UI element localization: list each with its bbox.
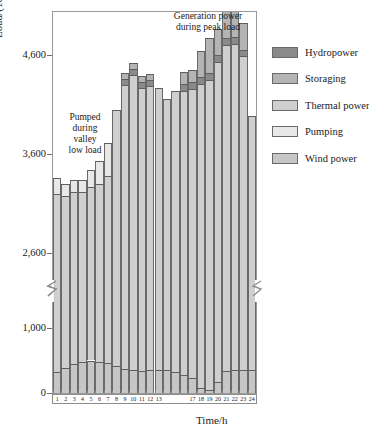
x-tick-mark — [78, 391, 79, 395]
bar-segment — [222, 38, 230, 45]
x-tick-label: 20 — [214, 395, 222, 404]
bar-segment — [239, 50, 247, 57]
bar-segment — [163, 370, 171, 393]
x-tick-mark — [231, 391, 232, 395]
legend-item[interactable]: Thermal power — [272, 99, 368, 111]
bar-segment — [180, 72, 188, 84]
x-tick-label: 18 — [197, 395, 205, 404]
bar-segment — [129, 69, 137, 75]
bar-segment — [61, 184, 69, 197]
bar-segment — [197, 51, 205, 78]
bar-segment — [87, 187, 95, 361]
bar-segment — [70, 192, 78, 363]
x-tick-mark — [171, 391, 172, 395]
bar-segment — [61, 368, 69, 393]
x-tick-label: 17 — [188, 395, 196, 404]
x-tick-label: 13 — [155, 395, 163, 404]
x-tick-label: 9 — [121, 395, 129, 404]
plot-inner — [53, 12, 256, 393]
legend-swatch — [272, 153, 298, 164]
bar-segment — [188, 378, 196, 393]
bar-segment — [121, 85, 129, 369]
bar-segment — [121, 79, 129, 85]
x-tick-mark — [112, 391, 113, 395]
x-tick-mark — [205, 391, 206, 395]
x-tick-label: 11 — [138, 395, 146, 404]
bar-segment — [197, 77, 205, 84]
bar-segment — [231, 370, 239, 393]
axis-break-right-icon — [250, 280, 264, 302]
bar-segment — [248, 116, 256, 371]
legend-label: Pumping — [305, 126, 343, 137]
bar-segment — [205, 80, 213, 390]
legend-item[interactable]: Pumping — [272, 126, 368, 138]
bar-segment — [112, 366, 120, 393]
x-tick-label: 4 — [78, 395, 86, 404]
bar-segment — [171, 91, 179, 372]
legend-item[interactable]: Wind power — [272, 152, 368, 164]
bar-segment — [104, 363, 112, 393]
bar-segment — [121, 369, 129, 393]
x-tick-label: 8 — [112, 395, 120, 404]
x-tick-mark — [155, 391, 156, 395]
chart-legend: HydropowerStoragingThermal powerPumpingW… — [272, 46, 368, 179]
bar-segment — [87, 361, 95, 394]
x-tick-mark — [214, 391, 215, 395]
y-tick-label: 4,600 — [0, 50, 46, 61]
bar-segment — [95, 161, 103, 184]
bar-segment — [70, 180, 78, 193]
bar-segment — [231, 44, 239, 371]
legend-item[interactable]: Storaging — [272, 73, 368, 85]
bar-segment — [70, 364, 78, 393]
bar-segment — [222, 45, 230, 371]
x-tick-mark — [239, 391, 240, 395]
x-tick-label: 23 — [239, 395, 247, 404]
bar-segment — [214, 382, 222, 393]
chart-figure: Load/(10MW) 01,0002,6003,6004,600 123456… — [0, 0, 369, 436]
x-tick-mark — [87, 391, 88, 395]
x-tick-mark — [61, 391, 62, 395]
bar-segment — [95, 184, 103, 363]
bar-segment — [146, 370, 154, 393]
x-tick-mark — [180, 391, 181, 395]
bar-segment — [121, 73, 129, 79]
bar-segment — [138, 371, 146, 393]
axis-break-left-icon — [45, 280, 59, 302]
x-tick-mark — [121, 391, 122, 395]
x-tick-mark — [188, 391, 189, 395]
bar-segment — [239, 56, 247, 370]
bar-segment — [188, 70, 196, 82]
bar-segment — [129, 75, 137, 370]
x-axis-title: Time/h — [196, 414, 227, 426]
x-tick-label: 24 — [248, 395, 256, 404]
x-tick-mark — [163, 391, 164, 395]
bar-segment — [231, 37, 239, 44]
bar-segment — [53, 178, 61, 195]
x-tick-mark — [53, 391, 54, 395]
bar-segment — [180, 375, 188, 393]
bar-segment — [78, 362, 86, 393]
bar-segment — [53, 372, 61, 393]
bar-segment — [163, 99, 171, 370]
x-tick-label: 10 — [129, 395, 137, 404]
bar-segment — [138, 76, 146, 82]
legend-swatch — [272, 126, 298, 137]
x-tick-label: 7 — [104, 395, 112, 404]
bar-segment — [129, 370, 137, 393]
bar-segment — [146, 80, 154, 86]
bar-segment — [180, 84, 188, 91]
bar-segment — [214, 62, 222, 382]
y-tick-label: 2,600 — [0, 248, 46, 259]
bar-segment — [188, 89, 196, 378]
bar-segment — [95, 362, 103, 393]
bar-segment — [180, 91, 188, 375]
annotation-peak-load: Generation power during peak load — [152, 11, 264, 33]
bar-segment — [138, 88, 146, 371]
x-tick-label: 19 — [205, 395, 213, 404]
legend-item[interactable]: Hydropower — [272, 46, 368, 58]
x-tick-mark — [197, 391, 198, 395]
bar-segment — [155, 370, 163, 393]
legend-label: Thermal power — [305, 100, 369, 111]
bar-segment — [78, 180, 86, 193]
bar-segment — [248, 370, 256, 393]
